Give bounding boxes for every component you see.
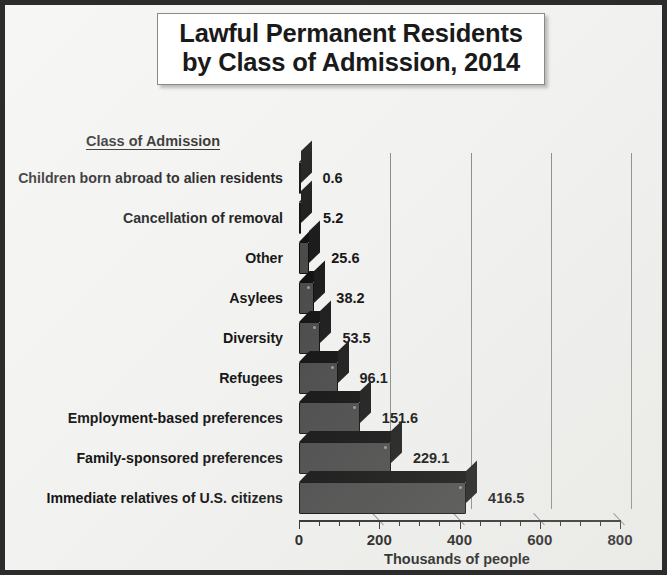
bar-top-face: [299, 431, 402, 442]
category-label-7: Family-sponsored preferences: [76, 450, 283, 466]
value-label-8: 416.5: [488, 490, 524, 506]
value-label-2: 25.6: [331, 250, 359, 266]
chart-row: Other25.6: [5, 238, 662, 278]
bar-front-face: [299, 162, 301, 194]
bar-6[interactable]: [299, 402, 360, 434]
bar-highlight: [353, 406, 356, 409]
bar-5[interactable]: [299, 362, 338, 394]
bar-highlight: [459, 486, 462, 489]
bar-side-face: [301, 140, 312, 183]
bar-front-face: [299, 282, 314, 314]
category-label-6: Employment-based preferences: [68, 410, 283, 426]
value-label-5: 96.1: [360, 370, 388, 386]
chart-row: Immediate relatives of U.S. citizens416.…: [5, 478, 662, 518]
chart-row: Cancellation of removal5.2: [5, 198, 662, 238]
bar-front-face: [299, 442, 391, 474]
x-axis-title: Thousands of people: [357, 551, 557, 567]
bar-highlight: [384, 446, 387, 449]
x-tick-label-400: 400: [430, 531, 490, 548]
bar-front-face: [299, 482, 466, 514]
bar-1[interactable]: [299, 202, 301, 234]
value-label-0: 0.6: [323, 170, 343, 186]
category-label-2: Other: [245, 250, 283, 266]
x-tick-label-600: 600: [510, 531, 570, 548]
bar-front-face: [299, 322, 320, 354]
bar-highlight: [313, 326, 316, 329]
bar-front-face: [299, 202, 301, 234]
x-axis-line: [299, 520, 620, 522]
slide-frame: Lawful Permanent Residents by Class of A…: [0, 0, 667, 575]
chart-row: Asylees38.2: [5, 278, 662, 318]
bar-highlight: [307, 286, 310, 289]
category-label-4: Diversity: [223, 330, 283, 346]
chart-title-line-2: by Class of Admission, 2014: [168, 48, 534, 77]
value-label-1: 5.2: [323, 210, 343, 226]
x-tick-label-200: 200: [349, 531, 409, 548]
bar-7[interactable]: [299, 442, 391, 474]
chart-row: Children born abroad to alien residents0…: [5, 158, 662, 198]
chart-title: Lawful Permanent Residents by Class of A…: [157, 13, 545, 85]
value-label-3: 38.2: [336, 290, 364, 306]
bar-front-face: [299, 242, 309, 274]
bar-2[interactable]: [299, 242, 309, 274]
category-label-3: Asylees: [229, 290, 283, 306]
x-tick-label-800: 800: [590, 531, 650, 548]
chart-title-line-1: Lawful Permanent Residents: [168, 19, 534, 48]
x-tick-800: [620, 520, 621, 529]
bar-chart: Class of Admission 0200400600800Children…: [5, 5, 662, 570]
bar-highlight: [331, 366, 334, 369]
bar-4[interactable]: [299, 322, 320, 354]
category-label-5: Refugees: [219, 370, 283, 386]
bar-top-face: [299, 471, 477, 482]
category-axis-header: Class of Admission: [83, 133, 223, 149]
bar-0[interactable]: [299, 162, 301, 194]
x-tick-label-0: 0: [269, 531, 329, 548]
category-label-8: Immediate relatives of U.S. citizens: [46, 490, 283, 506]
bar-front-face: [299, 402, 360, 434]
category-label-0: Children born abroad to alien residents: [18, 170, 283, 186]
category-label-1: Cancellation of removal: [123, 210, 283, 226]
bar-8[interactable]: [299, 482, 466, 514]
bar-3[interactable]: [299, 282, 314, 314]
value-label-7: 229.1: [413, 450, 449, 466]
bar-front-face: [299, 362, 338, 394]
